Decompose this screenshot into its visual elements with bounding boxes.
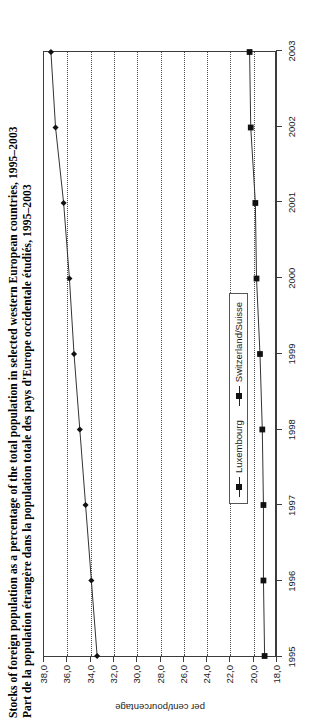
y-axis-tick-label: 22,0 <box>224 665 235 684</box>
y-axis-tick-label: 28,0 <box>154 665 165 684</box>
diamond-marker-icon <box>234 477 244 497</box>
y-axis-tick-label: 30,0 <box>131 665 142 684</box>
y-axis-tick <box>136 657 137 662</box>
x-axis-tick-label: 2002 <box>286 116 297 137</box>
x-axis-tick <box>276 50 282 51</box>
square-marker-icon <box>262 653 268 659</box>
y-axis-tick <box>253 657 254 662</box>
square-marker-icon <box>247 49 253 55</box>
y-axis-tick <box>66 657 67 662</box>
diamond-marker-icon <box>77 426 83 432</box>
diamond-marker-icon <box>83 502 89 508</box>
x-axis-tick <box>276 277 282 278</box>
figure-title-french: Part de la population étrangère dans la … <box>20 6 34 718</box>
diamond-marker-icon <box>88 577 94 583</box>
legend-item-luxembourg: Luxembourg <box>233 420 244 497</box>
figure-title-english: Stocks of foreign population as a percen… <box>6 6 20 718</box>
legend-label-luxembourg: Luxembourg <box>233 420 244 473</box>
y-axis-tick <box>229 657 230 662</box>
square-marker-icon <box>252 200 258 206</box>
square-marker-icon <box>261 502 267 508</box>
x-axis-tick-label: 1999 <box>286 343 297 364</box>
x-axis-tick <box>276 202 282 203</box>
y-axis-tick <box>43 657 44 662</box>
y-axis-title: per cent/pourcentage <box>55 702 265 713</box>
x-axis-tick <box>276 429 282 430</box>
x-axis-line <box>276 51 277 657</box>
x-axis-tick <box>276 126 282 127</box>
x-axis-tick <box>276 505 282 506</box>
x-axis-tick-label: 1998 <box>286 419 297 440</box>
square-marker-icon <box>248 125 254 131</box>
y-axis-tick-label: 38,0 <box>38 665 49 684</box>
y-axis-tick <box>183 657 184 662</box>
figure-titles: Stocks of foreign population as a percen… <box>6 6 34 718</box>
y-axis: per cent/pourcentage 38,036,034,032,030,… <box>43 657 276 726</box>
legend-label-switzerland: Switzerland/Suisse <box>233 302 244 382</box>
y-axis-tick-label: 36,0 <box>61 665 72 684</box>
diamond-marker-icon <box>48 49 54 55</box>
y-axis-tick-label: 18,0 <box>271 665 282 684</box>
x-axis-tick-label: 2001 <box>286 192 297 213</box>
x-axis-tick <box>276 656 282 657</box>
x-axis-tick-label: 2003 <box>286 40 297 61</box>
x-axis-tick-label: 1995 <box>286 646 297 667</box>
x-axis-tick-label: 1997 <box>286 495 297 516</box>
x-axis-tick <box>276 580 282 581</box>
diamond-marker-icon <box>66 275 72 281</box>
x-axis-tick-label: 1996 <box>286 571 297 592</box>
x-axis-tick-label: 2000 <box>286 268 297 289</box>
diamond-marker-icon <box>61 200 67 206</box>
rotated-figure-canvas: Stocks of foreign population as a percen… <box>0 0 323 726</box>
square-marker-icon <box>254 276 260 282</box>
square-marker-icon <box>257 351 263 357</box>
square-marker-icon <box>261 578 267 584</box>
x-axis: 199519961997199819992000200120022003 <box>276 51 320 657</box>
y-axis-tick-label: 26,0 <box>177 665 188 684</box>
chart-figure: Stocks of foreign population as a percen… <box>0 0 323 726</box>
legend-item-switzerland: Switzerland/Suisse <box>233 302 244 406</box>
y-axis-tick <box>206 657 207 662</box>
square-marker-icon <box>234 386 244 406</box>
x-axis-tick <box>276 353 282 354</box>
square-marker-icon <box>259 427 265 433</box>
y-axis-tick <box>160 657 161 662</box>
y-axis-tick-label: 34,0 <box>84 665 95 684</box>
y-axis-tick <box>90 657 91 662</box>
y-axis-tick-label: 24,0 <box>201 665 212 684</box>
y-axis-tick-label: 32,0 <box>107 665 118 684</box>
diamond-marker-icon <box>71 351 77 357</box>
diamond-marker-icon <box>52 124 58 130</box>
y-axis-tick-label: 20,0 <box>247 665 258 684</box>
chart-legend: Luxembourg Switzerland/Suisse <box>229 293 248 504</box>
y-axis-tick <box>276 657 277 662</box>
y-axis-tick <box>113 657 114 662</box>
